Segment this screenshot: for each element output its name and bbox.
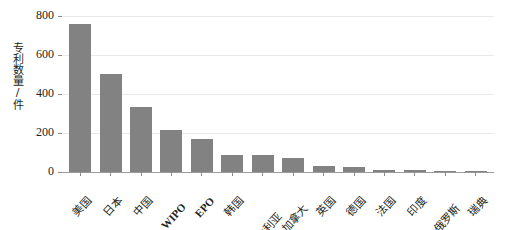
x-axis-label-slot: 瑞典	[460, 176, 490, 230]
bar-slot	[65, 16, 95, 172]
y-axis-ticks: 0200400600800	[0, 16, 62, 172]
x-axis-label-text: 俄罗斯	[432, 203, 463, 230]
y-axis-tick-label: 400	[36, 86, 54, 101]
bar[interactable]	[191, 139, 213, 172]
x-axis-label-text: 美国	[71, 194, 95, 218]
x-axis-label-slot: 法国	[369, 176, 399, 230]
bar-slot	[217, 16, 247, 172]
bar-slot	[156, 16, 186, 172]
y-axis-tick-label: 600	[36, 47, 54, 62]
x-axis-label-text: 中国	[132, 194, 156, 218]
x-axis-label: 瑞典	[481, 178, 505, 202]
x-axis-label-text: 法国	[375, 194, 399, 218]
x-axis-label-text: 日本	[101, 194, 125, 218]
x-axis-label-slot: 英国	[308, 176, 338, 230]
bar-chart: 专利数量/件 0200400600800 美国日本中国WIPOEPO韩国澳大利亚…	[0, 0, 505, 230]
bar[interactable]	[130, 107, 152, 172]
y-axis-tick-label: 800	[36, 8, 54, 23]
bar[interactable]	[252, 155, 274, 172]
x-axis-label-text: 印度	[405, 194, 429, 218]
bar[interactable]	[282, 158, 304, 172]
x-axis-label-slot: 加拿大	[278, 176, 308, 230]
x-axis-label-text: 加拿大	[280, 203, 311, 230]
x-axis-label-text: 英国	[314, 194, 338, 218]
x-axis-label-text: EPO	[192, 195, 216, 220]
bar-series	[62, 16, 494, 172]
bar-slot	[460, 16, 490, 172]
y-axis-tick-label: 0	[48, 164, 54, 179]
x-axis-label-slot: 韩国	[217, 176, 247, 230]
bar[interactable]	[160, 130, 182, 172]
y-axis-tick-label: 200	[36, 125, 54, 140]
bar-slot	[95, 16, 125, 172]
bar-slot	[278, 16, 308, 172]
x-axis-label-slot: WIPO	[156, 176, 186, 230]
bar-slot	[339, 16, 369, 172]
bar[interactable]	[221, 155, 243, 172]
x-axis-label-slot: 德国	[339, 176, 369, 230]
bar-slot	[308, 16, 338, 172]
x-axis-label-text: 韩国	[223, 194, 247, 218]
bar-slot	[430, 16, 460, 172]
bar-slot	[187, 16, 217, 172]
x-axis-label-slot: 俄罗斯	[430, 176, 460, 230]
x-axis-label-slot: 澳大利亚	[248, 176, 278, 230]
bar-slot	[248, 16, 278, 172]
x-axis-label-slot: 印度	[400, 176, 430, 230]
x-axis-labels: 美国日本中国WIPOEPO韩国澳大利亚加拿大英国德国法国印度俄罗斯瑞典	[62, 176, 494, 230]
bar-slot	[126, 16, 156, 172]
bar-slot	[369, 16, 399, 172]
x-axis-label-text: WIPO	[159, 201, 188, 230]
bar-slot	[400, 16, 430, 172]
x-axis-label-slot: 中国	[126, 176, 156, 230]
bar[interactable]	[100, 74, 122, 172]
x-axis-label-slot: EPO	[187, 176, 217, 230]
x-axis-label-text: 德国	[345, 194, 369, 218]
x-axis-label-slot: 美国	[65, 176, 95, 230]
plot-area	[62, 16, 494, 172]
bar[interactable]	[69, 24, 91, 172]
x-axis-label-text: 瑞典	[466, 194, 490, 218]
x-axis-label-slot: 日本	[95, 176, 125, 230]
